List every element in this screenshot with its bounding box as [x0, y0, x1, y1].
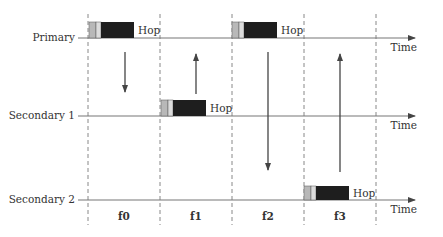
- time-label: Time: [390, 119, 417, 131]
- channel-label: Primary: [32, 31, 75, 43]
- channel-label: Secondary 2: [9, 193, 75, 205]
- hop-label: Hop: [138, 24, 160, 36]
- hopping-diagram: Primary Time Secondary 1 Time Secondary …: [0, 0, 443, 237]
- hop-packet-f0: Hop: [89, 22, 160, 38]
- time-label: Time: [390, 41, 417, 53]
- frame-label-f2: f2: [262, 210, 274, 222]
- time-label: Time: [390, 203, 417, 215]
- frame-label-f0: f0: [118, 210, 130, 222]
- channel-label: Secondary 1: [9, 109, 75, 121]
- hop-label: Hop: [353, 187, 375, 199]
- hop-label: Hop: [281, 24, 303, 36]
- hop-packet-f2: Hop: [232, 22, 303, 38]
- hop-packet-f1: Hop: [161, 100, 232, 116]
- hop-label: Hop: [210, 102, 232, 114]
- frame-label-f3: f3: [334, 210, 346, 222]
- hop-packet-f3: Hop: [304, 186, 375, 200]
- frame-label-f1: f1: [190, 210, 202, 222]
